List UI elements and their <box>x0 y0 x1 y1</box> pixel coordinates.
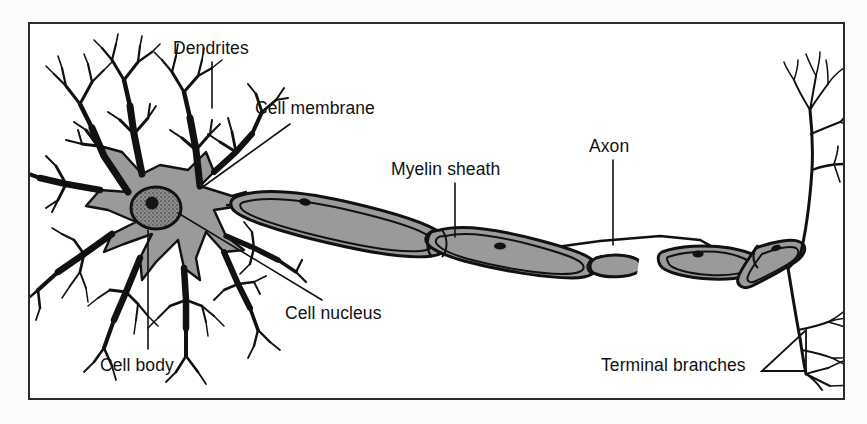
figure-canvas: Dendrites Cell membrane Myelin sheath Ax… <box>0 0 867 424</box>
terminal-branches-bracket <box>762 330 806 371</box>
label-cell-membrane: Cell membrane <box>255 98 375 119</box>
label-myelin-sheath: Myelin sheath <box>391 159 500 180</box>
cell-nucleus-shape <box>131 187 181 229</box>
label-cell-nucleus: Cell nucleus <box>285 303 382 324</box>
label-dendrites: Dendrites <box>173 38 249 59</box>
label-axon: Axon <box>589 136 629 157</box>
label-terminal-branches: Terminal branches <box>601 355 746 376</box>
myelin-sheath-group <box>226 191 805 292</box>
leader-cell-membrane <box>204 124 290 186</box>
label-cell-body: Cell body <box>100 355 174 376</box>
